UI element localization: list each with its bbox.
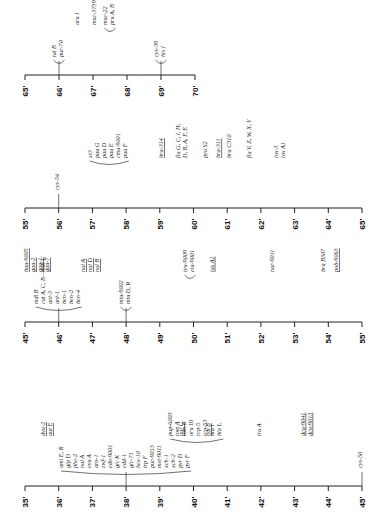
tick-label: 61' bbox=[223, 219, 232, 230]
locus-label: pru A, B bbox=[108, 4, 115, 26]
tick-label: 63' bbox=[291, 219, 300, 230]
map-row-row-45-55: 45'46'47'48'49'50'51'52'53'54'55'bau-900… bbox=[21, 248, 367, 344]
locus-label: pau G bbox=[93, 142, 100, 159]
locus-label: nal B bbox=[93, 259, 100, 272]
locus-label: pur-9013 bbox=[148, 445, 155, 469]
locus-label: met-9011 bbox=[155, 445, 162, 468]
locus-label: oru III bbox=[187, 419, 194, 436]
locus-group: cys-39his I bbox=[152, 41, 167, 75]
locus-label: cys-39 bbox=[152, 41, 159, 57]
locus-label: xch-1 bbox=[162, 454, 169, 469]
locus-group: tal Bpur-70 bbox=[50, 39, 65, 75]
locus-group: ami E, Rglp Dphe-2nal Aeva Aaro-1zwf-1ed… bbox=[57, 445, 191, 486]
locus-label: ami E, R bbox=[57, 446, 64, 468]
locus-label: glc K bbox=[113, 454, 120, 468]
tick-label: 65' bbox=[21, 86, 30, 97]
locus-group: bra-311 bbox=[214, 139, 221, 158]
tick-label: 39' bbox=[156, 497, 165, 508]
locus-group: bau-9005gau-2gau-1gau-7 bbox=[22, 248, 50, 272]
locus-label: ben-2 bbox=[67, 290, 74, 304]
locus-group: lox-3lox A1 bbox=[272, 142, 286, 158]
genetic-map: 65'66'67'68'69'70'tal Bpur-70oru Imuc-37… bbox=[0, 0, 384, 516]
bracket-curve bbox=[105, 28, 116, 32]
locus-label: pau E bbox=[107, 143, 114, 159]
locus-label: cys-50 bbox=[356, 451, 363, 468]
locus-label: nar-9011 bbox=[268, 250, 275, 272]
tick-label: 35' bbox=[21, 497, 30, 508]
locus-label: pyo S2 bbox=[201, 141, 208, 159]
tick-label: 37' bbox=[88, 497, 97, 508]
locus-group: bra-314 bbox=[157, 138, 164, 158]
locus-label: nal A bbox=[79, 259, 86, 272]
locus-group: fla V, Z, W, X, Y bbox=[245, 119, 252, 158]
locus-label: ant-1 bbox=[53, 291, 60, 304]
locus-label: phe-2 bbox=[71, 454, 78, 469]
locus-group: bra B307 bbox=[319, 248, 326, 272]
tick-label: 41' bbox=[223, 497, 232, 508]
locus-label: bra-311 bbox=[214, 139, 221, 158]
locus-label: pur-70 bbox=[57, 39, 64, 58]
tick-label: 38' bbox=[122, 497, 131, 508]
bracket-curve bbox=[170, 439, 223, 443]
locus-label: gau-2 bbox=[29, 258, 36, 272]
tick-label: 58' bbox=[122, 219, 131, 230]
locus-group: tyu-9009elu-9001 bbox=[181, 250, 196, 279]
tick-label: 49' bbox=[156, 333, 165, 344]
locus-label: pyr F bbox=[183, 454, 190, 469]
tick-label: 43' bbox=[291, 497, 300, 508]
locus-label: dvu-2 bbox=[39, 422, 46, 436]
locus-label: ant-3 bbox=[46, 291, 53, 304]
locus-label: mdl B bbox=[32, 289, 39, 304]
locus-label: his I bbox=[159, 45, 166, 57]
locus-label: pau D bbox=[100, 142, 107, 159]
locus-label: glp D bbox=[64, 454, 71, 468]
locus-label: aut E bbox=[46, 423, 53, 436]
tick-label: 57' bbox=[88, 219, 97, 230]
bracket-curve bbox=[90, 161, 129, 165]
tick-label: 40' bbox=[190, 497, 199, 508]
locus-label: ben-4 bbox=[74, 290, 81, 304]
map-row-row-65-70: 65'66'67'68'69'70'tal Bpur-70oru Imuc-37… bbox=[21, 0, 200, 96]
locus-group: pup-6003tom Atom Boru IIIrcp-5rcp-53bla … bbox=[166, 412, 223, 442]
locus-group: nal Anal Dnal B bbox=[79, 258, 100, 272]
locus-label: rcp-5 bbox=[194, 423, 201, 436]
locus-group: muc-22pru A, B bbox=[101, 4, 116, 31]
locus-label: cmu-9001 bbox=[114, 133, 121, 158]
locus-label: D, B, A, F, E bbox=[181, 127, 188, 159]
tick-label: 36' bbox=[55, 497, 64, 508]
locus-label: edd-1 bbox=[120, 454, 127, 468]
locus-label: lox A1 bbox=[279, 142, 286, 158]
locus-label: fla G, C, I, H, bbox=[174, 124, 181, 158]
locus-group: bra C310 bbox=[225, 134, 232, 158]
tick-label: 52' bbox=[257, 333, 266, 344]
tick-label: 67' bbox=[89, 86, 98, 97]
tick-label: 44' bbox=[324, 497, 333, 508]
locus-label: bra B307 bbox=[319, 248, 326, 272]
locus-label: xch-2 bbox=[169, 454, 176, 469]
locus-label: pup-6003 bbox=[166, 412, 173, 437]
locus-label: las A1 bbox=[208, 256, 215, 272]
locus-group: pyo S2 bbox=[201, 141, 208, 159]
locus-group: cys-50 bbox=[356, 451, 363, 486]
tick-label: 45' bbox=[358, 497, 367, 508]
tick-label: 47' bbox=[88, 333, 97, 344]
locus-label: trp F bbox=[141, 455, 148, 468]
locus-label: hex-10 bbox=[134, 450, 141, 468]
tick-label: 54' bbox=[324, 333, 333, 344]
locus-group: tra A bbox=[255, 423, 262, 436]
locus-label: pob-9063 bbox=[332, 248, 339, 273]
locus-group: oru I bbox=[73, 12, 80, 25]
tick-label: 50' bbox=[190, 333, 199, 344]
locus-group: sr3pau Gpau Dpau Ecmu-9001pau F bbox=[86, 133, 129, 164]
locus-label: ben-1 bbox=[60, 290, 67, 304]
tick-label: 66' bbox=[55, 86, 64, 97]
tick-label: 60' bbox=[190, 219, 199, 230]
locus-label: sr3 bbox=[86, 150, 93, 158]
locus-label: bau-9005 bbox=[22, 248, 29, 272]
locus-group: nar-9011 bbox=[268, 250, 275, 272]
tick-label: 59' bbox=[156, 219, 165, 230]
locus-group: dvu-2aut E bbox=[39, 422, 53, 436]
tick-label: 65' bbox=[358, 219, 367, 230]
map-row-row-35-45: 35'36'37'38'39'40'41'42'43'44'45'dvu-2au… bbox=[21, 412, 367, 507]
locus-label: tal B bbox=[50, 45, 57, 57]
